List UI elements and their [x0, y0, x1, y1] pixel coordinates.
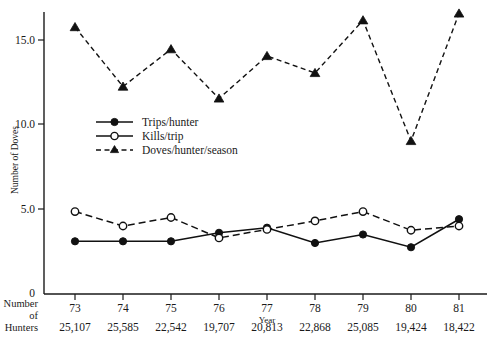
chart-figure: 15.0 10.0 5.0 0 Number of Doves 73 74 75 [0, 0, 491, 338]
data-point-triangle [70, 23, 80, 31]
chart-canvas: 15.0 10.0 5.0 0 Number of Doves 73 74 75 [0, 0, 491, 338]
hunters-label-line-3: Hunters [5, 322, 38, 333]
legend-label: Trips/hunter [142, 116, 199, 129]
x-tick-label: 80 [405, 302, 417, 314]
legend-entry-kills-trip: Kills/trip [96, 130, 184, 143]
hunters-value: 19,707 [203, 321, 235, 334]
x-axis-labels: 73 74 75 76 77 78 79 80 81 [69, 302, 465, 314]
data-point-filled-circle [359, 231, 366, 238]
x-tick-label: 74 [117, 302, 129, 314]
hunters-value: 25,107 [59, 321, 91, 334]
data-point-open-circle [167, 214, 174, 221]
x-tick-label: 75 [165, 302, 177, 314]
hunters-row-label: Number of Hunters [4, 298, 39, 333]
legend-label: Kills/trip [142, 130, 184, 143]
hunters-value: 20,813 [251, 321, 283, 334]
data-point-triangle [358, 16, 368, 24]
legend-marker-filled-triangle [110, 146, 118, 153]
hunters-value: 19,424 [395, 321, 427, 334]
data-point-open-circle [71, 208, 78, 215]
x-tick-label: 78 [309, 302, 321, 314]
hunters-label-line-1: Number [4, 298, 39, 309]
series-doves-hunter-season [70, 9, 464, 145]
data-point-filled-circle [167, 238, 174, 245]
x-axis-ticks [75, 294, 459, 300]
hunters-label-line-2: of [29, 310, 38, 321]
data-point-open-circle [119, 222, 126, 229]
hunters-values-row: 25,107 25,585 22,542 19,707 20,813 22,86… [59, 321, 475, 334]
legend-marker-open-circle [111, 132, 118, 139]
data-point-open-circle [215, 234, 222, 241]
data-point-open-circle [311, 217, 318, 224]
series-layer [70, 9, 464, 251]
data-point-open-circle [263, 226, 270, 233]
legend-entry-trips-hunter: Trips/hunter [96, 116, 199, 129]
chart-legend: Trips/hunter Kills/trip Doves/hunter/sea… [96, 116, 238, 156]
data-point-triangle [166, 45, 176, 53]
data-point-triangle [214, 94, 224, 102]
y-axis-title: Number of Doves [10, 126, 20, 194]
hunters-value: 25,085 [347, 321, 379, 334]
hunters-value: 25,585 [107, 321, 139, 334]
x-tick-label: 73 [69, 302, 81, 314]
data-point-open-circle [407, 227, 414, 234]
legend-label: Doves/hunter/season [142, 144, 238, 156]
hunters-value: 18,422 [443, 321, 475, 334]
hunters-value: 22,542 [155, 321, 187, 334]
x-tick-label: 76 [213, 302, 225, 314]
data-point-filled-circle [71, 238, 78, 245]
x-tick-label: 79 [357, 302, 369, 314]
data-point-filled-circle [311, 239, 318, 246]
hunters-value: 22,868 [299, 321, 331, 334]
y-tick-label-5: 5.0 [21, 203, 36, 215]
y-tick-label-15: 15.0 [15, 34, 35, 46]
legend-entry-doves-hunter-season: Doves/hunter/season [96, 144, 238, 156]
data-point-filled-circle [119, 238, 126, 245]
data-point-open-circle [455, 222, 462, 229]
data-point-triangle [454, 9, 464, 17]
data-point-triangle [406, 136, 416, 144]
legend-marker-filled-circle [111, 118, 118, 125]
x-tick-label: 81 [453, 302, 465, 314]
x-tick-label: 77 [261, 302, 273, 314]
data-point-triangle [262, 51, 272, 59]
data-point-open-circle [359, 208, 366, 215]
data-point-filled-circle [407, 244, 414, 251]
